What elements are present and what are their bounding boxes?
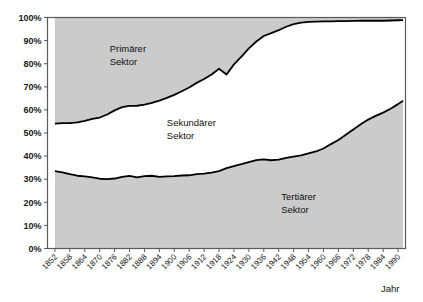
annotation-line-1: Tertiärer: [281, 191, 316, 202]
annotation-line-2: Sektor: [281, 204, 308, 215]
x-tick-label: 1870: [85, 252, 104, 271]
x-tick-label: 1960: [309, 252, 328, 271]
x-tick-label: 1882: [115, 252, 134, 271]
x-tick-label: 1954: [294, 252, 313, 271]
y-tick-label: 60%: [23, 105, 41, 115]
y-axis-ticks: 0%10%20%30%40%50%60%70%80%90%100%: [18, 13, 47, 254]
x-tick-label: 1966: [324, 252, 343, 271]
x-tick-label: 1906: [175, 252, 194, 271]
x-tick-label: 1888: [130, 252, 149, 271]
x-tick-label: 1864: [70, 252, 89, 271]
y-tick-label: 40%: [23, 151, 41, 161]
annotation-line-1: Primärer: [110, 43, 146, 54]
y-tick-label: 20%: [23, 198, 41, 208]
y-tick-label: 0%: [28, 244, 41, 254]
annotation-line-2: Sektor: [167, 130, 194, 141]
x-tick-label: 1894: [145, 252, 164, 271]
x-tick-label: 1918: [204, 252, 223, 271]
x-tick-label: 1858: [55, 252, 74, 271]
x-axis-ticks: 1852185818641870187618821888189419001906…: [40, 249, 402, 272]
y-tick-label: 70%: [23, 82, 41, 92]
chart-canvas: 0%10%20%30%40%50%60%70%80%90%100% 185218…: [0, 0, 423, 302]
y-tick-label: 80%: [23, 59, 41, 69]
x-tick-label: 1948: [279, 252, 298, 271]
y-tick-label: 10%: [23, 221, 41, 231]
annotation-line-2: Sektor: [110, 56, 137, 67]
x-tick-label: 1936: [249, 252, 268, 271]
x-tick-label: 1852: [40, 252, 59, 271]
x-axis-title: Jahr: [381, 283, 399, 294]
x-tick-label: 1876: [100, 252, 119, 271]
x-tick-label: 1972: [339, 252, 358, 271]
x-tick-label: 1912: [189, 252, 208, 271]
y-tick-label: 90%: [23, 36, 41, 46]
x-tick-label: 1990: [383, 252, 402, 271]
x-tick-label: 1924: [219, 252, 238, 271]
y-tick-label: 30%: [23, 174, 41, 184]
stacked-area-chart: 0%10%20%30%40%50%60%70%80%90%100% 185218…: [0, 0, 423, 302]
annotation-line-1: Sekundärer: [167, 117, 216, 128]
x-tick-label: 1942: [264, 252, 283, 271]
y-tick-label: 100%: [18, 13, 41, 23]
x-tick-label: 1900: [160, 252, 179, 271]
x-tick-label: 1978: [354, 252, 373, 271]
x-tick-label: 1984: [368, 252, 387, 271]
x-tick-label: 1930: [234, 252, 253, 271]
y-tick-label: 50%: [23, 128, 41, 138]
